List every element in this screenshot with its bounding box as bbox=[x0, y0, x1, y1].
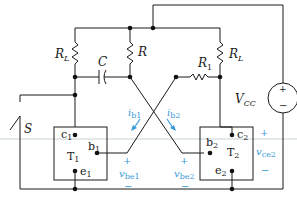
label-c1: c1 bbox=[61, 128, 72, 142]
vbe1-minus: − bbox=[124, 181, 132, 192]
resistor-rl-left bbox=[72, 42, 78, 64]
resistor-r bbox=[127, 42, 133, 64]
label-vcc: VCC bbox=[235, 92, 256, 108]
vcc-top-wire bbox=[153, 5, 283, 77]
label-b2: b2 bbox=[206, 136, 218, 150]
vbe1-plus: + bbox=[123, 155, 131, 166]
circuit-diagram: + − RL R RL R1 C VCC S c1 b1 T1 e1 bbox=[0, 0, 297, 198]
switch-top-wire bbox=[20, 95, 75, 102]
svg-text:−: − bbox=[279, 100, 287, 111]
resistor-rl-right bbox=[217, 42, 223, 64]
label-ib2: ib2 bbox=[167, 107, 180, 120]
label-t2: T2 bbox=[227, 146, 239, 160]
vbe2-plus: + bbox=[180, 155, 188, 166]
label-t1: T1 bbox=[67, 150, 79, 164]
label-e2: e2 bbox=[215, 164, 227, 178]
svg-text:+: + bbox=[279, 84, 287, 94]
label-b1: b1 bbox=[88, 140, 100, 154]
switch-s bbox=[10, 116, 20, 130]
label-r: R bbox=[137, 45, 147, 59]
label-c: C bbox=[98, 55, 107, 69]
label-e1: e1 bbox=[80, 165, 92, 179]
label-r1: R1 bbox=[197, 56, 212, 72]
resistor-r1 bbox=[190, 74, 208, 80]
vce2-minus: − bbox=[261, 165, 269, 176]
junction-dots bbox=[73, 26, 235, 192]
label-rl-left: RL bbox=[54, 47, 69, 63]
label-vce2: vce2 bbox=[256, 146, 276, 159]
label-s: S bbox=[24, 122, 32, 136]
label-c2: c2 bbox=[237, 128, 248, 142]
label-vbe2: vbe2 bbox=[174, 168, 195, 181]
vbe2-minus: − bbox=[181, 181, 189, 192]
label-ib1: ib1 bbox=[128, 107, 141, 120]
vce2-plus: + bbox=[260, 127, 268, 138]
label-rl-right: RL bbox=[228, 47, 243, 63]
label-vbe1: vbe1 bbox=[119, 168, 140, 181]
